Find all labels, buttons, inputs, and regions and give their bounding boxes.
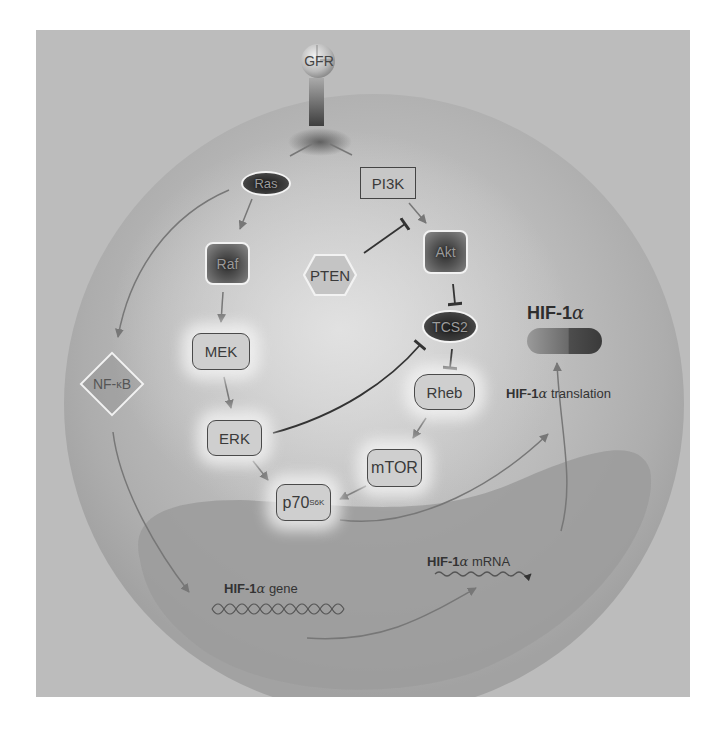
node-mtor[interactable]: mTOR [367, 449, 422, 487]
hif1a-gene-label: HIF-1α gene [224, 581, 298, 596]
node-p70s6k[interactable]: p70S6K [276, 484, 331, 521]
node-pi3k[interactable]: PI3K [360, 167, 416, 199]
p70-superscript: S6K [309, 498, 324, 507]
node-raf[interactable]: Raf [205, 242, 250, 285]
node-mek[interactable]: MEK [192, 333, 250, 370]
translation-rest: translation [547, 386, 611, 401]
hif1a-protein-label: HIF-1α [527, 302, 584, 324]
hif1a-protein-icon [527, 328, 602, 354]
hif1a-translation-label: HIF-1α translation [506, 386, 611, 401]
translation-alpha: α [539, 386, 548, 401]
nfkb-suffix: B [122, 376, 131, 392]
node-rheb[interactable]: Rheb [414, 374, 475, 410]
nfkb-prefix: NF- [93, 376, 116, 392]
node-tcs2[interactable]: TCS2 [422, 310, 478, 343]
node-nfkb[interactable]: NF-κB [77, 349, 147, 419]
gene-alpha: α [257, 581, 266, 596]
gene-rest: gene [265, 581, 298, 596]
mrna-bold: HIF-1 [427, 554, 460, 569]
node-akt[interactable]: Akt [423, 230, 468, 274]
gfr-label: GFR [300, 50, 338, 72]
node-ras[interactable]: Ras [241, 171, 291, 196]
pten-label: PTEN [303, 254, 357, 296]
node-erk[interactable]: ERK [207, 420, 262, 456]
hif1a-prefix: HIF-1 [527, 303, 572, 323]
mrna-alpha: α [460, 554, 469, 569]
gene-bold: HIF-1 [224, 581, 257, 596]
hif1a-mrna-label: HIF-1α mRNA [427, 554, 510, 569]
hif1a-alpha: α [572, 302, 584, 323]
mrna-rest: mRNA [468, 554, 510, 569]
node-pten[interactable]: PTEN [303, 254, 357, 296]
gfr-stem [309, 78, 324, 126]
nfkb-label: NF-κB [77, 349, 147, 419]
translation-bold: HIF-1 [506, 386, 539, 401]
cytoplasm-glow [110, 130, 570, 530]
p70-base: p70 [283, 494, 310, 512]
